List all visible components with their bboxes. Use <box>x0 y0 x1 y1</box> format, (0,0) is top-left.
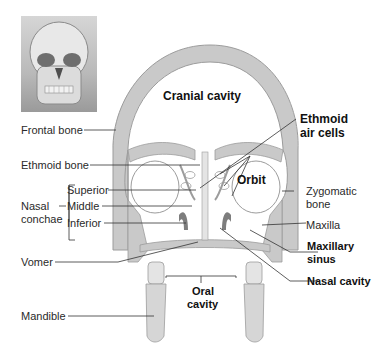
label-nasal-conchae-2: conchae <box>21 213 63 226</box>
label-concha-superior: Superior <box>67 184 109 197</box>
label-oral-cavity-2: cavity <box>187 298 218 311</box>
label-maxilla: Maxilla <box>306 219 340 232</box>
label-ethmoid-air-cells-2: air cells <box>300 127 345 140</box>
label-zygomatic-1: Zygomatic <box>306 185 357 198</box>
mandible-right <box>244 284 264 342</box>
label-zygomatic-2: bone <box>306 198 330 211</box>
label-nasal-conchae-1: Nasal <box>21 200 49 213</box>
label-concha-inferior: Inferior <box>67 217 101 230</box>
label-maxillary-sinus-2: sinus <box>307 253 336 266</box>
label-cranial-cavity: Cranial cavity <box>163 90 241 103</box>
label-ethmoid-bone: Ethmoid bone <box>21 159 89 172</box>
label-orbit: Orbit <box>237 174 266 187</box>
label-maxillary-sinus-1: Maxillary <box>307 240 354 253</box>
label-mandible: Mandible <box>21 310 66 323</box>
label-concha-middle: Middle <box>67 200 99 213</box>
label-nasal-cavity: Nasal cavity <box>307 275 371 288</box>
label-frontal-bone: Frontal bone <box>21 124 83 137</box>
label-ethmoid-air-cells-1: Ethmoid <box>300 113 348 126</box>
label-vomer: Vomer <box>21 256 53 269</box>
label-oral-cavity-1: Oral <box>192 285 214 298</box>
mandible-left <box>146 284 166 342</box>
